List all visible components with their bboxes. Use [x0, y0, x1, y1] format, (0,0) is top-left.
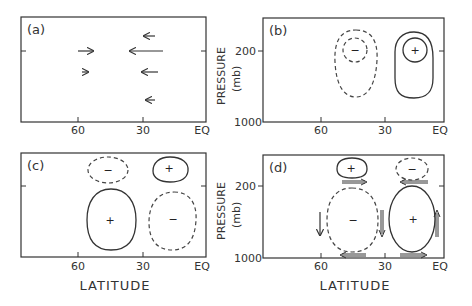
- minus-sign: −: [348, 214, 357, 227]
- x-tick-label-eq: EQ: [432, 260, 448, 273]
- plus-sign: +: [408, 213, 417, 226]
- y-axis-unit: (mb): [230, 202, 243, 228]
- x-axis-label: LATITUDE: [320, 278, 391, 293]
- plus-sign: +: [164, 162, 173, 175]
- x-tick-label-eq: EQ: [432, 124, 448, 137]
- arrow-down-30-icon: [379, 210, 385, 237]
- arrow-east-upper-icon: [342, 179, 367, 185]
- y-axis-label: PRESSURE: [215, 47, 228, 105]
- y-tick-label-200: 200: [235, 45, 256, 58]
- minus-sign: −: [407, 163, 416, 176]
- x-tick-label-60: 60: [71, 260, 85, 273]
- arrow-east-surface-icon: [400, 252, 427, 258]
- x-tick-label-60: 60: [314, 260, 328, 273]
- y-tick-label-1000: 1000: [234, 252, 262, 265]
- plus-sign: +: [410, 44, 419, 57]
- panel-b-label: (b): [269, 23, 287, 38]
- x-axis-label: LATITUDE: [80, 278, 151, 293]
- x-tick-label-eq: EQ: [194, 260, 210, 273]
- panel-c: (c) 60 30 EQ LATITUDE − + + −: [21, 153, 210, 293]
- minus-sign: −: [103, 164, 112, 177]
- y-axis-unit: (mb): [230, 66, 243, 92]
- x-tick-label-30: 30: [378, 124, 392, 137]
- plus-sign: +: [105, 214, 114, 227]
- panel-a: (a) 60 30 EQ: [21, 17, 210, 137]
- y-tick-label-1000: 1000: [234, 116, 262, 129]
- x-tick-label-60: 60: [314, 124, 328, 137]
- arrow-west-surface-icon: [340, 252, 366, 258]
- panel-a-label: (a): [27, 22, 45, 37]
- arrow-west-upper-icon: [400, 179, 428, 185]
- panel-d-label: (d): [269, 160, 287, 175]
- contour-positive-outer: [395, 32, 433, 98]
- minus-sign: −: [168, 213, 177, 226]
- y-axis-label: PRESSURE: [215, 182, 228, 240]
- panel-b-frame: [263, 18, 444, 122]
- figure-canvas: (a) 60 30 EQ (b) 200 1000 60 30 EQ PRESS…: [0, 0, 472, 306]
- x-tick-label-eq: EQ: [194, 124, 210, 137]
- contour-negative-outer: [335, 30, 377, 97]
- plus-sign: +: [346, 162, 355, 175]
- x-tick-label-30: 30: [136, 260, 150, 273]
- panel-a-frame: [21, 17, 206, 122]
- minus-sign: −: [350, 44, 359, 57]
- panel-b: (b) 200 1000 60 30 EQ PRESSURE (mb) − +: [215, 18, 448, 137]
- x-tick-label-60: 60: [71, 124, 85, 137]
- panel-c-frame: [21, 153, 206, 257]
- x-tick-label-30: 30: [136, 124, 150, 137]
- panel-c-label: (c): [27, 158, 44, 173]
- x-tick-label-30: 30: [378, 260, 392, 273]
- panel-d: (d) 200 1000 60 30 EQ LATITUDE PRESSURE …: [215, 155, 448, 293]
- y-tick-label-200: 200: [235, 180, 256, 193]
